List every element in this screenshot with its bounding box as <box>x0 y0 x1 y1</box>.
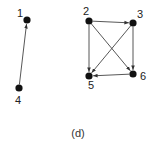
node-label-4: 4 <box>15 94 21 106</box>
figure-caption: (d) <box>71 127 84 139</box>
edge-2-to-3 <box>93 21 129 23</box>
edge-3-to-5 <box>92 26 131 73</box>
node-label-6: 6 <box>140 70 146 82</box>
node-label-3: 3 <box>137 8 143 20</box>
edge-2-to-6 <box>91 24 130 71</box>
nodes <box>15 16 136 91</box>
node-2 <box>85 17 92 24</box>
node-3 <box>129 19 136 26</box>
node-labels: 142356 <box>15 5 146 106</box>
node-4 <box>15 84 22 91</box>
directed-graph: 142356 (d) <box>0 0 152 150</box>
node-label-1: 1 <box>17 7 23 19</box>
node-6 <box>129 70 136 77</box>
edges <box>19 21 133 84</box>
node-label-5: 5 <box>88 79 94 91</box>
node-1 <box>23 16 30 23</box>
node-label-2: 2 <box>83 5 89 17</box>
edge-6-to-5 <box>93 74 129 76</box>
edge-4-to-1 <box>19 24 26 84</box>
